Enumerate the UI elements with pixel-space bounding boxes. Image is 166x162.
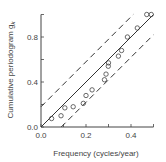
data-point [116, 54, 120, 58]
data-point [90, 88, 94, 92]
confidence-limit-line [41, 15, 133, 107]
y-tick-label: 0.4 [27, 78, 39, 87]
cumulative-periodogram-chart: 0.00.20.40.00.40.8 Frequency (cycles/yea… [0, 0, 166, 162]
data-point [84, 93, 88, 97]
y-axis-label: Cumulative periodogram gk [6, 21, 16, 119]
data-point [102, 78, 106, 82]
data-point [59, 114, 63, 118]
y-tick-label: 0.8 [27, 33, 39, 42]
data-point [125, 35, 129, 39]
confidence-limit-line [61, 35, 153, 127]
reference-lines [41, 15, 154, 128]
data-point [145, 12, 149, 16]
x-axis-label: Frequency (cycles/year) [53, 149, 139, 158]
x-tick-label: 0.0 [35, 131, 47, 140]
data-point [104, 72, 108, 76]
y-tick-label: 0.0 [27, 123, 39, 132]
data-point [135, 26, 139, 30]
data-point [149, 12, 153, 16]
plot-area: 0.00.20.40.00.40.8 Frequency (cycles/yea… [0, 0, 166, 162]
x-tick-label: 0.2 [80, 131, 92, 140]
data-point [119, 48, 123, 52]
x-tick-label: 0.4 [125, 131, 137, 140]
data-point [63, 106, 67, 110]
theoretical-line [41, 15, 154, 128]
data-point [71, 105, 75, 109]
